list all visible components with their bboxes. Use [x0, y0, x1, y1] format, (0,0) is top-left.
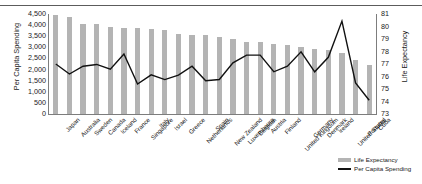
legend-line-swatch-icon: [338, 168, 351, 170]
y-axis-right-tick-label: 77: [381, 60, 401, 68]
y-axis-left-tick-label: 1,500: [18, 77, 46, 85]
x-axis-tick-label-text: Greece: [187, 116, 206, 135]
line-series-per-capita-spending: [49, 14, 376, 114]
y-axis-left-tick-label: 0: [18, 110, 46, 118]
y-axis-left-tick-label: 1,000: [18, 88, 46, 96]
y-axis-right-tick-label: 75: [381, 85, 401, 93]
y-axis-left-tick-label: 3,500: [18, 32, 46, 40]
y-axis-right-tick-label: 76: [381, 73, 401, 81]
figure-top-rule: [0, 5, 422, 6]
y-axis-right-tick-label: 79: [381, 35, 401, 43]
y-axis-left-tick-label: 3,000: [18, 43, 46, 51]
x-axis-tick-label: Israel: [172, 116, 188, 132]
y-axis-right-line: [376, 14, 377, 115]
chart-figure: Per Capita Spending Life Expectancy 0500…: [0, 0, 422, 184]
legend-item-life-expectancy: Life Expectancy: [338, 155, 422, 164]
x-axis-tick-label: Japan: [64, 116, 81, 133]
legend-item-per-capita-spending: Per Capita Spending: [338, 164, 422, 173]
y-axis-left-tick-label: 4,000: [18, 21, 46, 29]
y-axis-left-tick-label: 500: [18, 99, 46, 107]
y-axis-left-tick-label: 2,000: [18, 66, 46, 74]
y-axis-right-tick-label: 78: [381, 48, 401, 56]
x-axis-tick-label: Greece: [187, 116, 206, 135]
legend-label-life-expectancy: Life Expectancy: [354, 155, 398, 164]
y-axis-left-tick-label: 4,500: [18, 10, 46, 18]
y-axis-right-tick-label: 80: [381, 23, 401, 31]
x-axis-line: [48, 114, 377, 115]
y-axis-left-tick-label: 2,500: [18, 54, 46, 62]
y-axis-right-tick-label: 81: [381, 10, 401, 18]
x-axis-tick-label-text: Japan: [64, 116, 81, 133]
y-axis-right-tick-label: 74: [381, 98, 401, 106]
legend-bar-swatch-icon: [338, 158, 351, 162]
x-axis-tick-label-text: Israel: [172, 116, 188, 132]
legend-label-per-capita-spending: Per Capita Spending: [354, 164, 411, 173]
plot-area: [49, 14, 376, 114]
chart-legend: Life Expectancy Per Capita Spending: [338, 155, 422, 173]
